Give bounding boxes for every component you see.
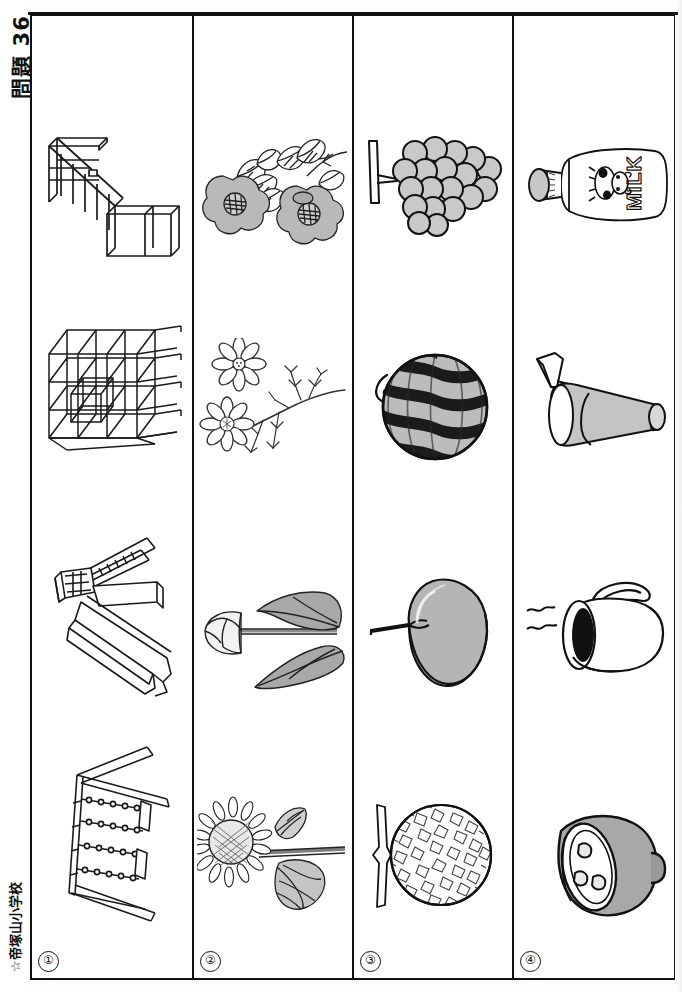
item-slide — [32, 516, 192, 706]
item-apple — [354, 562, 512, 702]
band-number-3: ③ — [360, 951, 381, 972]
item-watermelon — [354, 336, 512, 476]
item-tulip — [194, 561, 352, 701]
band-drinks: ④ — [514, 16, 675, 978]
band-number-2: ② — [200, 951, 221, 972]
item-cosmos — [194, 332, 352, 472]
item-sunflower — [194, 782, 352, 932]
worksheet-page: 問題 36 ☆帝塚山小学校 ① — [0, 0, 682, 992]
band-fruits: ③ — [354, 16, 514, 978]
milk-label: MILK — [622, 155, 645, 210]
band-playground-equipment: ① — [32, 16, 194, 978]
item-melon — [354, 782, 512, 932]
worksheet-table: ① — [30, 14, 675, 980]
school-name: ☆帝塚山小学校 — [4, 832, 28, 972]
item-grapes — [354, 116, 512, 256]
item-jungle-gym — [32, 294, 192, 494]
item-camellia — [194, 106, 352, 256]
band-flowers: ② — [194, 16, 354, 978]
band-number-1: ① — [38, 951, 59, 972]
item-horizontal-ladder — [32, 74, 192, 274]
scan-edge-shadow — [676, 0, 682, 992]
band-number-4: ④ — [520, 951, 541, 972]
item-rice-bowl — [514, 782, 675, 942]
item-milk-bottle: MILK — [514, 116, 675, 266]
item-swing-set — [32, 728, 192, 928]
left-margin: 問題 36 ☆帝塚山小学校 — [0, 0, 26, 992]
item-cup-with-straw — [514, 336, 675, 476]
item-coffee-mug — [514, 562, 675, 712]
